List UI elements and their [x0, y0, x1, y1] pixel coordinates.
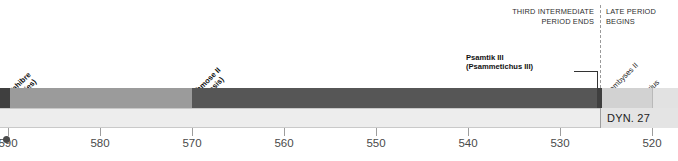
axis-tick-label: 520	[642, 137, 661, 149]
leader-line-vertical	[597, 71, 598, 88]
axis-tick-label: 580	[90, 137, 109, 149]
axis-tick-label: 560	[274, 137, 293, 149]
axis-tick	[100, 128, 101, 136]
axis-tick-label: 590	[0, 137, 18, 149]
period-boundary-line	[600, 5, 601, 93]
reign-bar-pre-segment	[0, 88, 10, 108]
axis-tick	[376, 128, 377, 136]
annotation-late-period-begins: LATE PERIOD BEGINS	[606, 7, 678, 26]
timeline-chart: THIRD INTERMEDIATE PERIOD ENDS LATE PERI…	[0, 0, 678, 161]
axis-tick	[8, 128, 9, 136]
reign-label-psamtik-iii: Psamtik III (Psammetichus III)	[466, 53, 533, 72]
axis-tick-label: 550	[366, 137, 385, 149]
reign-bar-cambyses-ii	[602, 88, 652, 108]
dynasty-strip	[0, 108, 678, 128]
axis-tick-label: 540	[458, 137, 477, 149]
reign-bar-wahibre	[10, 88, 192, 108]
axis-tick	[192, 128, 193, 136]
leader-line-horizontal	[574, 71, 598, 72]
time-axis: 590580570560550540530520	[0, 128, 678, 161]
axis-tick	[560, 128, 561, 136]
reign-bar-ahmose-ii	[192, 88, 597, 108]
annotation-third-intermediate-period-ends: THIRD INTERMEDIATE PERIOD ENDS	[498, 7, 594, 26]
axis-tick-label: 570	[182, 137, 201, 149]
dynasty-27-label: DYN. 27	[601, 112, 650, 124]
reign-bars	[0, 88, 678, 108]
axis-tick-label: 530	[550, 137, 569, 149]
axis-tick	[652, 128, 653, 136]
reign-bar-darius-i	[652, 88, 678, 108]
reign-separator	[652, 88, 653, 108]
axis-tick	[468, 128, 469, 136]
dynasty-27-box: DYN. 27	[600, 108, 678, 128]
axis-tick	[284, 128, 285, 136]
